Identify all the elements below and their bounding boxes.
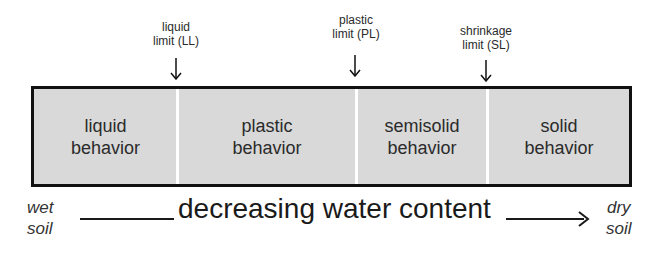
zone-semisolid: semisolid behavior <box>358 89 486 184</box>
plastic-limit-line2: limit (PL) <box>318 27 394 41</box>
zone-plastic-line1: plastic <box>232 115 301 137</box>
axis-line-left <box>80 218 174 220</box>
liquid-limit-line1: liquid <box>140 20 212 34</box>
dry-soil-line1: dry <box>606 197 632 218</box>
zone-plastic: plastic behavior <box>179 89 355 184</box>
dry-soil-label: dry soil <box>606 197 632 239</box>
dry-soil-line2: soil <box>606 218 632 239</box>
zone-solid-line1: solid <box>524 115 593 137</box>
plastic-limit-arrow-icon <box>349 55 361 77</box>
shrinkage-limit-line2: limit (SL) <box>446 38 526 52</box>
wet-soil-line1: wet <box>27 197 53 218</box>
liquid-limit-line2: limit (LL) <box>140 34 212 48</box>
axis-line-right <box>506 218 584 220</box>
zone-plastic-line2: behavior <box>232 137 301 159</box>
plastic-limit-label: plastic limit (PL) <box>318 13 394 41</box>
zone-liquid-line1: liquid <box>71 115 140 137</box>
axis-arrowhead-icon <box>578 211 590 227</box>
liquid-limit-label: liquid limit (LL) <box>140 20 212 48</box>
zone-semisolid-line1: semisolid <box>384 115 459 137</box>
zone-solid-line2: behavior <box>524 137 593 159</box>
plastic-limit-line1: plastic <box>318 13 394 27</box>
zone-semisolid-line2: behavior <box>384 137 459 159</box>
wet-soil-line2: soil <box>27 218 53 239</box>
shrinkage-limit-label: shrinkage limit (SL) <box>446 24 526 52</box>
decreasing-water-content-label: decreasing water content <box>178 192 491 226</box>
behavior-bar: liquid behavior plastic behavior semisol… <box>31 86 632 187</box>
shrinkage-limit-arrow-icon <box>480 60 492 82</box>
liquid-limit-arrow-icon <box>170 58 182 80</box>
zone-liquid-line2: behavior <box>71 137 140 159</box>
zone-solid: solid behavior <box>489 89 629 184</box>
zone-liquid: liquid behavior <box>34 89 177 184</box>
wet-soil-label: wet soil <box>27 197 53 239</box>
shrinkage-limit-line1: shrinkage <box>446 24 526 38</box>
